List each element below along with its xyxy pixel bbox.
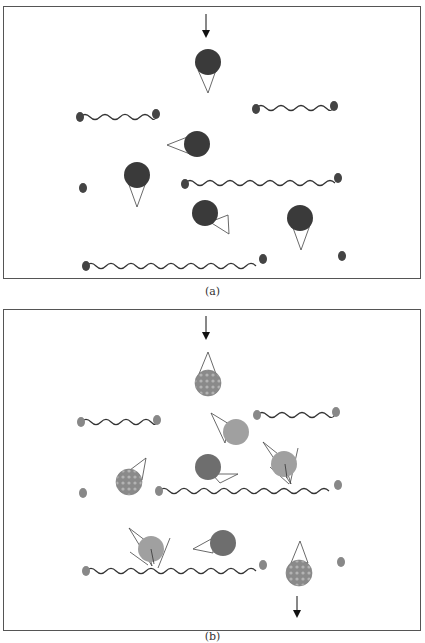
chain xyxy=(80,115,156,120)
sphere xyxy=(195,49,221,75)
sphere-patterned xyxy=(195,370,221,396)
panel-a-content xyxy=(76,14,346,271)
panel-b-content xyxy=(77,316,345,618)
chain xyxy=(256,106,334,111)
